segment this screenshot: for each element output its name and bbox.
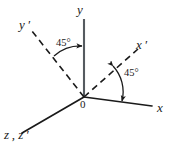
- origin-label: 0: [80, 99, 86, 110]
- x-axis-line: [84, 97, 152, 106]
- x-prime-axis-label: x ′: [136, 38, 147, 51]
- z-axes-label: z , z ′: [4, 128, 29, 141]
- y-axis-label: y: [77, 3, 83, 16]
- angle-arc-right: [113, 66, 123, 101]
- z-axis-line: [22, 97, 84, 133]
- x-axis-label: x: [157, 101, 163, 114]
- angle-label-right: 45°: [124, 68, 139, 79]
- y-prime-axis-label: y ′: [19, 18, 30, 31]
- angle-label-left: 45°: [56, 38, 71, 49]
- coordinate-axes-figure: y y ′ x ′ x z , z ′ 0 45° 45°: [0, 0, 172, 150]
